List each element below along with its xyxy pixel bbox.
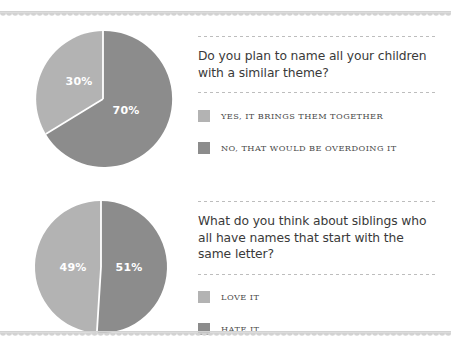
- pie-2-label-dark: 51%: [116, 261, 143, 274]
- survey-section-2: 49% 51% What do you think about siblings…: [0, 192, 451, 328]
- legend-item[interactable]: LOVE IT: [198, 291, 438, 304]
- question-block-2: What do you think about siblings who all…: [198, 201, 438, 336]
- pie-1-label-dark: 70%: [113, 104, 140, 117]
- pie-chart-2: 49% 51%: [28, 194, 174, 340]
- pie-2-label-light: 49%: [60, 261, 87, 274]
- question-text-2: What do you think about siblings who all…: [198, 213, 436, 263]
- legend-item[interactable]: YES, IT BRINGS THEM TOGETHER: [198, 109, 438, 122]
- legend-item-label: YES, IT BRINGS THEM TOGETHER: [221, 111, 383, 121]
- legend-swatch-icon: [198, 291, 210, 303]
- legend-item[interactable]: NO, THAT WOULD BE OVERDOING IT: [198, 141, 438, 154]
- legend-swatch-icon: [198, 110, 210, 122]
- dashed-rule-above-question-1: [198, 36, 436, 37]
- scalloped-divider-bottom: [0, 328, 451, 340]
- scalloped-divider-top: [0, 8, 451, 20]
- dashed-rule-below-question-1: [198, 92, 436, 93]
- legend-1: YES, IT BRINGS THEM TOGETHER NO, THAT WO…: [198, 109, 438, 154]
- question-block-1: Do you plan to name all your children wi…: [198, 36, 438, 154]
- legend-item-label: LOVE IT: [221, 292, 259, 302]
- infographic-page: { "colors": { "light_slice": "#b3b3b3", …: [0, 0, 451, 348]
- dashed-rule-below-question-2: [198, 274, 436, 275]
- pie-chart-1: 30% 70%: [28, 24, 178, 174]
- dashed-rule-above-question-2: [198, 201, 436, 202]
- legend-item-label: NO, THAT WOULD BE OVERDOING IT: [221, 143, 397, 153]
- survey-section-1: 30% 70% Do you plan to name all your chi…: [0, 24, 451, 176]
- legend-swatch-icon: [198, 142, 210, 154]
- pie-1-label-light: 30%: [66, 75, 93, 88]
- question-text-1: Do you plan to name all your children wi…: [198, 48, 436, 81]
